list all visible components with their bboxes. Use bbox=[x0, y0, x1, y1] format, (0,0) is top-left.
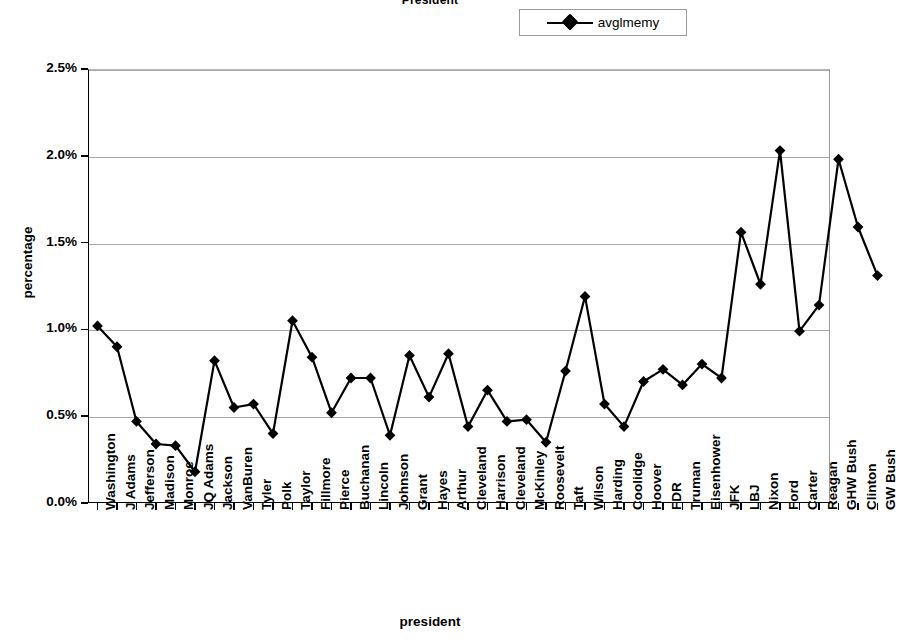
y-axis-label: 2.5% bbox=[21, 60, 77, 75]
x-axis-label: Madison bbox=[162, 455, 177, 510]
x-axis-tick bbox=[448, 503, 449, 510]
x-axis-tick bbox=[272, 503, 273, 510]
x-axis-tick bbox=[545, 503, 546, 510]
data-point-marker bbox=[833, 154, 844, 165]
y-axis-label: 0.0% bbox=[21, 494, 77, 509]
x-axis-tick bbox=[467, 503, 468, 510]
data-point-marker bbox=[580, 291, 591, 302]
x-axis-tick bbox=[779, 503, 780, 510]
data-point-marker bbox=[404, 350, 415, 361]
data-point-marker bbox=[482, 385, 493, 396]
x-axis-tick bbox=[253, 503, 254, 510]
data-point-marker bbox=[346, 373, 357, 384]
x-axis-label: Johnson bbox=[396, 454, 411, 510]
x-axis-label: VanBuren bbox=[240, 447, 255, 510]
x-axis-tick bbox=[643, 503, 644, 510]
data-point-marker bbox=[287, 315, 298, 326]
x-axis-tick bbox=[311, 503, 312, 510]
y-axis-tick bbox=[81, 415, 88, 417]
data-point-marker bbox=[385, 430, 396, 441]
x-axis-tick bbox=[350, 503, 351, 510]
data-point-marker bbox=[638, 376, 649, 387]
x-axis-tick bbox=[584, 503, 585, 510]
y-axis-label: 2.0% bbox=[21, 147, 77, 162]
x-axis-tick bbox=[838, 503, 839, 510]
y-axis-tick bbox=[81, 68, 88, 70]
x-axis-label: Washington bbox=[103, 433, 118, 510]
data-point-marker bbox=[424, 392, 435, 403]
data-point-marker bbox=[502, 416, 513, 427]
series-line bbox=[98, 151, 878, 472]
y-axis-tick bbox=[81, 502, 88, 504]
x-axis-tick bbox=[565, 503, 566, 510]
data-point-marker bbox=[443, 348, 454, 359]
x-axis-label: Eisenhower bbox=[708, 434, 723, 510]
x-axis-tick bbox=[740, 503, 741, 510]
data-point-marker bbox=[853, 222, 864, 233]
x-axis-tick bbox=[116, 503, 117, 510]
y-axis-tick bbox=[81, 329, 88, 331]
x-axis-tick bbox=[604, 503, 605, 510]
x-axis-tick bbox=[721, 503, 722, 510]
x-axis-label: Harrison bbox=[493, 454, 508, 510]
x-axis-tick bbox=[506, 503, 507, 510]
x-axis-tick bbox=[136, 503, 137, 510]
x-axis-label: Roosevelt bbox=[552, 445, 567, 510]
x-axis-tick bbox=[175, 503, 176, 510]
x-axis-label: Cleveland bbox=[513, 446, 528, 510]
x-axis-label: J Adams bbox=[123, 454, 138, 510]
x-axis-tick bbox=[682, 503, 683, 510]
x-axis-tick bbox=[292, 503, 293, 510]
x-axis-label: Cleveland bbox=[474, 446, 489, 510]
x-axis-tick bbox=[194, 503, 195, 510]
y-axis-label: 1.0% bbox=[21, 320, 77, 335]
x-axis-label: Coolidge bbox=[630, 452, 645, 510]
x-axis-tick bbox=[389, 503, 390, 510]
x-axis-tick bbox=[857, 503, 858, 510]
x-axis-label: JQ Adams bbox=[201, 444, 216, 510]
data-point-marker bbox=[755, 279, 766, 290]
data-point-marker bbox=[209, 355, 220, 366]
data-point-marker bbox=[560, 366, 571, 377]
x-axis-tick bbox=[233, 503, 234, 510]
x-axis-tick bbox=[662, 503, 663, 510]
x-axis-tick bbox=[428, 503, 429, 510]
data-point-marker bbox=[736, 227, 747, 238]
data-point-marker bbox=[326, 407, 337, 418]
x-axis-tick bbox=[370, 503, 371, 510]
x-axis-label: McKinley bbox=[532, 451, 547, 510]
x-axis-tick bbox=[97, 503, 98, 510]
x-axis-tick bbox=[818, 503, 819, 510]
data-point-marker bbox=[872, 270, 883, 281]
x-axis-title: president bbox=[0, 614, 860, 629]
x-axis-tick bbox=[701, 503, 702, 510]
y-axis-tick bbox=[81, 242, 88, 244]
x-axis-tick bbox=[409, 503, 410, 510]
x-axis-tick bbox=[877, 503, 878, 510]
x-axis-tick bbox=[623, 503, 624, 510]
x-axis-tick bbox=[331, 503, 332, 510]
x-axis-label: GW Bush bbox=[883, 449, 898, 510]
x-axis-label: Jackson bbox=[220, 456, 235, 510]
data-point-marker bbox=[307, 352, 318, 363]
y-axis-label: 0.5% bbox=[21, 407, 77, 422]
data-point-marker bbox=[775, 145, 786, 156]
x-axis-tick bbox=[214, 503, 215, 510]
x-axis-tick bbox=[487, 503, 488, 510]
x-axis-tick bbox=[799, 503, 800, 510]
data-point-marker bbox=[229, 402, 240, 413]
x-axis-label: Jefferson bbox=[142, 449, 157, 510]
data-point-marker bbox=[365, 373, 376, 384]
x-axis-tick bbox=[155, 503, 156, 510]
x-axis-label: Buchanan bbox=[357, 445, 372, 510]
y-axis-label: 1.5% bbox=[21, 234, 77, 249]
x-axis-tick bbox=[760, 503, 761, 510]
x-axis-tick bbox=[526, 503, 527, 510]
y-axis-tick bbox=[81, 155, 88, 157]
data-point-marker bbox=[463, 421, 474, 432]
x-axis-label: GHW Bush bbox=[844, 440, 859, 511]
